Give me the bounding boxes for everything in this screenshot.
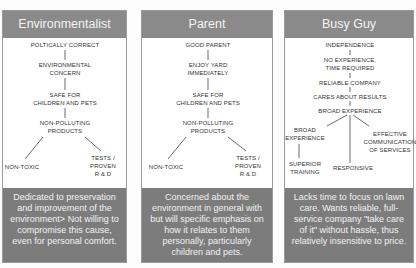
node-independence: INDEPENDENCE [326, 41, 375, 49]
node-tests-proven: TESTS /PROVENR & D [90, 154, 116, 178]
node-cares-about-results: CARES ABOUT RESULTS [313, 93, 386, 101]
node-politically-correct: POLTICALLY CORRECT [31, 41, 99, 49]
panel-busy-guy: Busy Guy INDEPENDENCE NO EXPERIENCE,TIME… [284, 10, 414, 263]
panel-title: Environmentalist [3, 11, 126, 38]
node-reliable-company: RELIABLE COMPANY [319, 79, 381, 87]
ladder-diagram: GOOD PARENT ENJOY YARDIMMEDIATELY SAFE F… [142, 38, 272, 190]
node-effective-communication: EFFECTIVECOMMUNICATIONOF SERVICES [364, 130, 416, 154]
node-non-toxic: NON-TOXIC [5, 163, 39, 171]
panel-description: Dedicated to preservation and improvemen… [3, 188, 126, 262]
node-responsive: RESPONSIVE [333, 164, 373, 172]
ladder-diagram: POLTICALLY CORRECT ENVIRONMENTALCONCERN … [3, 38, 126, 190]
node-enjoy-yard: ENJOY YARDIMMEDIATELY [188, 61, 229, 77]
node-non-polluting: NON-POLLUTINGPRODUCTS [40, 119, 91, 135]
node-broad-experience-sub: BROADEXPERIENCE [285, 126, 325, 142]
node-environmental-concern: ENVIRONMENTALCONCERN [39, 61, 92, 77]
node-tests-proven: TESTS /PROVENR & D [235, 154, 261, 178]
node-non-polluting: NON-POLLUTINGPRODUCTS [183, 119, 234, 135]
node-no-experience: NO EXPERIENCE,TIME REQUIRED [324, 56, 376, 72]
ladder-diagram: INDEPENDENCE NO EXPERIENCE,TIME REQUIRED… [285, 38, 413, 190]
node-superior-training: SUPERIORTRAINING [289, 160, 321, 176]
panel-environmentalist: Environmentalist POLTICALLY CORRECT ENVI… [2, 10, 127, 263]
node-safe-for-children: SAFE FORCHILDREN AND PETS [33, 91, 97, 107]
panel-title: Busy Guy [285, 11, 413, 38]
panel-parent: Parent GOOD PARENT ENJOY YARDIMMEDIATELY… [141, 10, 273, 263]
node-safe-for-children: SAFE FORCHILDREN AND PETS [176, 91, 240, 107]
node-broad-experience: BROAD EXPERIENCE [318, 107, 381, 115]
panel-description: Concerned about the environment in gener… [142, 188, 272, 262]
node-non-toxic: NON-TOXIC [149, 163, 183, 171]
panel-description: Lacks time to focus on lawn care. Wants … [285, 188, 413, 262]
panel-title: Parent [142, 11, 272, 38]
node-good-parent: GOOD PARENT [186, 41, 231, 49]
